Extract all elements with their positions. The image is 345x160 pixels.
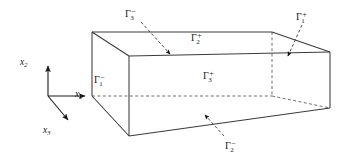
box-visible-edges — [92, 32, 330, 136]
gamma-3-minus-sup: − — [131, 7, 136, 16]
axis-label-x2: x2 — [20, 58, 27, 69]
box-diagram-svg — [0, 0, 345, 160]
axis-label-x3: x3 — [43, 126, 50, 137]
label-gamma-1-minus: Γ1− — [94, 74, 105, 88]
edge-bottom-left-depth — [92, 96, 129, 136]
leader-arrows — [141, 22, 302, 136]
label-gamma-1-plus: Γ1+ — [296, 11, 307, 25]
label-gamma-3-plus: Γ3+ — [203, 70, 214, 84]
axis-label-x1-sub: 1 — [79, 93, 83, 101]
leader-gamma-3-minus — [141, 22, 170, 54]
gamma-1-plus-sup: + — [302, 10, 307, 19]
axis-label-x2-sub: 2 — [24, 61, 28, 69]
label-gamma-2-plus: Γ2+ — [191, 32, 202, 46]
axis-label-x3-sub: 3 — [47, 129, 51, 137]
axis-label-x1: x1 — [75, 90, 82, 101]
gamma-3-plus-sup: + — [209, 69, 214, 78]
edge-top-left-depth — [92, 32, 129, 56]
edge-top-right-depth — [272, 32, 330, 52]
figure-container: x2 x1 x3 Γ3− Γ2+ Γ1+ Γ1− Γ3+ Γ2− — [0, 0, 345, 160]
gamma-1-minus-sup: − — [100, 73, 105, 82]
edge-top-front — [129, 52, 330, 56]
x3-axis-arrow — [48, 96, 68, 120]
leader-gamma-1-plus — [288, 25, 302, 56]
gamma-2-plus-sup: + — [197, 31, 202, 40]
edge-bottom-right-depth — [272, 96, 330, 108]
gamma-2-minus-sup: − — [231, 139, 236, 148]
label-gamma-3-minus: Γ3− — [125, 8, 136, 22]
label-gamma-2-minus: Γ2− — [225, 140, 236, 154]
edge-front-bottom — [129, 108, 330, 136]
